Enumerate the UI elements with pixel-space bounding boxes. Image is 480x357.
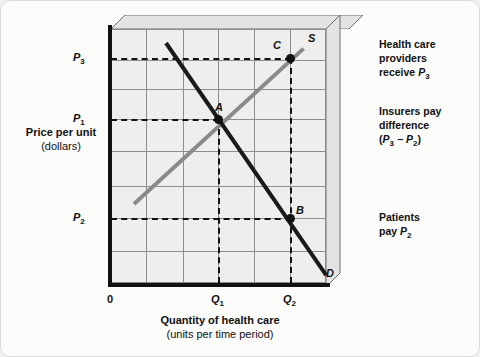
gridline-v: [254, 29, 255, 283]
figure-card: A C B S D P3 P1 P2 Q1 Q2 0 Price per uni…: [0, 0, 480, 357]
x-tick-q2: Q2: [283, 293, 296, 308]
annotation-insurers-line1: Insurers pay: [379, 105, 479, 119]
y-tick-p3: P3: [73, 51, 85, 66]
annotation-insurers-line3: (P3 − P2): [379, 133, 479, 150]
point-b-label: B: [296, 204, 304, 216]
guide-q1: [218, 119, 220, 283]
guide-p2: [111, 218, 291, 220]
annotation-providers: Health care providers receive P3: [379, 38, 479, 82]
guide-p1: [111, 119, 219, 121]
gridline-v: [325, 29, 326, 283]
gridline-v: [146, 29, 147, 283]
y-tick-p1: P1: [73, 112, 85, 127]
box-right-face: [326, 15, 363, 287]
guide-p3: [111, 58, 291, 60]
x-axis-title-units: (units per time period): [111, 327, 329, 341]
point-b-marker: [286, 214, 295, 223]
y-tick-p2: P2: [73, 211, 85, 226]
guide-q2: [290, 58, 292, 283]
y-axis-title-units: (dollars): [15, 140, 107, 154]
x-axis-title: Quantity of health care (units per time …: [111, 313, 329, 342]
point-a-label: A: [215, 101, 223, 113]
annotation-insurers-line2: difference: [379, 119, 479, 133]
y-axis-title-bold: Price per unit: [15, 126, 107, 140]
point-c-marker: [286, 54, 295, 63]
annotation-patients-line2: pay P2: [379, 225, 479, 242]
x-axis-title-bold: Quantity of health care: [111, 313, 329, 327]
point-c-label: C: [273, 39, 281, 51]
annotation-insurers: Insurers pay difference (P3 − P2): [379, 105, 479, 149]
gridline-h: [111, 89, 326, 90]
y-axis-line: [108, 25, 112, 287]
x-tick-q1: Q1: [211, 293, 224, 308]
annotation-patients: Patients pay P2: [379, 211, 479, 242]
annotation-providers-line1: Health care: [379, 38, 479, 52]
annotation-patients-line1: Patients: [379, 211, 479, 225]
y-axis-title: Price per unit (dollars): [15, 126, 107, 154]
gridline-h: [111, 29, 326, 30]
point-a-marker: [214, 115, 223, 124]
origin-label: 0: [107, 293, 113, 305]
annotation-providers-line2: providers: [379, 52, 479, 66]
demand-curve-label: D: [326, 267, 334, 279]
annotation-providers-line3: receive P3: [379, 66, 479, 83]
x-axis-line: [108, 283, 330, 287]
supply-curve-label: S: [308, 32, 315, 44]
